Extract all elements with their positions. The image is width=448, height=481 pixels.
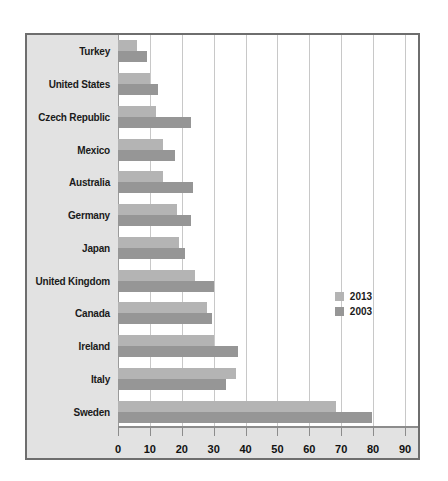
bar-2013 <box>118 335 214 346</box>
bar-row <box>118 395 418 428</box>
bar-2013 <box>118 40 137 51</box>
x-tick-label-80: 80 <box>367 443 379 455</box>
category-label: Mexico <box>77 144 110 155</box>
legend-swatch <box>335 292 344 301</box>
bar-2013 <box>118 270 195 281</box>
bar-2013 <box>118 368 236 379</box>
category-label-row: Sweden <box>27 395 118 428</box>
category-label-row: Ireland <box>27 330 118 363</box>
x-tick-10 <box>150 428 151 436</box>
x-tick-label-30: 30 <box>208 443 220 455</box>
legend-entry: 2013 <box>335 291 372 302</box>
bar-2003 <box>118 379 226 390</box>
category-label: Japan <box>82 242 110 253</box>
x-tick-40 <box>246 428 247 436</box>
category-label: Sweden <box>73 406 110 417</box>
bar-2003 <box>118 346 238 357</box>
x-tick-label-40: 40 <box>239 443 251 455</box>
category-label: Germany <box>68 210 110 221</box>
bar-2003 <box>118 51 147 62</box>
bar-row <box>118 297 418 330</box>
x-tick-label-90: 90 <box>399 443 411 455</box>
category-label: Canada <box>75 308 110 319</box>
bar-2013 <box>118 302 207 313</box>
bar-row <box>118 68 418 101</box>
category-label: Italy <box>91 373 110 384</box>
bar-2013 <box>118 237 179 248</box>
bar-2013 <box>118 204 177 215</box>
bar-2003 <box>118 150 175 161</box>
category-label-panel: TurkeyUnited StatesCzech RepublicMexicoA… <box>27 35 118 458</box>
category-label-row: Japan <box>27 232 118 265</box>
category-label: Turkey <box>79 46 110 57</box>
category-label-row: Canada <box>27 297 118 330</box>
category-label-row: Turkey <box>27 35 118 68</box>
category-label: United States <box>49 79 110 90</box>
x-tick-30 <box>214 428 215 436</box>
bar-row <box>118 232 418 265</box>
bar-2013 <box>118 401 336 412</box>
x-tick-80 <box>373 428 374 436</box>
legend-label: 2013 <box>350 291 372 302</box>
x-tick-label-70: 70 <box>335 443 347 455</box>
category-label: Ireland <box>79 341 110 352</box>
bar-2013 <box>118 171 163 182</box>
x-tick-label-60: 60 <box>303 443 315 455</box>
category-label: Czech Republic <box>38 111 110 122</box>
chart-legend: 20132003 <box>335 291 372 321</box>
category-label: Australia <box>69 177 110 188</box>
bar-2003 <box>118 412 372 423</box>
bar-row <box>118 363 418 396</box>
bar-2003 <box>118 117 191 128</box>
plot-area: 20132003 <box>118 35 418 458</box>
bar-2003 <box>118 84 158 95</box>
bar-row <box>118 199 418 232</box>
bar-row <box>118 133 418 166</box>
x-axis-band <box>27 428 418 458</box>
bar-2003 <box>118 215 191 226</box>
x-tick-60 <box>309 428 310 436</box>
bar-row <box>118 101 418 134</box>
bar-2013 <box>118 139 163 150</box>
category-label-row: Mexico <box>27 133 118 166</box>
bar-row <box>118 330 418 363</box>
category-label-row: Italy <box>27 363 118 396</box>
bar-2003 <box>118 313 212 324</box>
chart-frame: TurkeyUnited StatesCzech RepublicMexicoA… <box>25 33 420 460</box>
category-label: United Kingdom <box>36 275 110 286</box>
category-label-row: United Kingdom <box>27 264 118 297</box>
x-tick-label-10: 10 <box>144 443 156 455</box>
legend-swatch <box>335 307 344 316</box>
bar-2003 <box>118 182 193 193</box>
legend-entry: 2003 <box>335 306 372 317</box>
category-label-row: United States <box>27 68 118 101</box>
x-tick-20 <box>182 428 183 436</box>
bar-2003 <box>118 248 185 259</box>
x-tick-label-0: 0 <box>115 443 121 455</box>
x-tick-label-20: 20 <box>176 443 188 455</box>
x-tick-90 <box>405 428 406 436</box>
category-label-row: Germany <box>27 199 118 232</box>
category-label-row: Australia <box>27 166 118 199</box>
legend-label: 2003 <box>350 306 372 317</box>
x-tick-0 <box>118 428 119 436</box>
x-tick-70 <box>341 428 342 436</box>
bar-2013 <box>118 73 150 84</box>
x-tick-50 <box>277 428 278 436</box>
x-tick-label-50: 50 <box>271 443 283 455</box>
bar-row <box>118 166 418 199</box>
bar-row <box>118 35 418 68</box>
category-label-row: Czech Republic <box>27 101 118 134</box>
bar-2013 <box>118 106 156 117</box>
bar-row <box>118 264 418 297</box>
bar-2003 <box>118 281 214 292</box>
